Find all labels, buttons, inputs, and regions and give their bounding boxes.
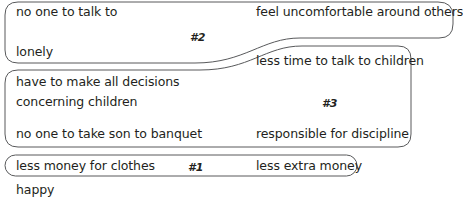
item-no-one-to-talk-to: no one to talk to — [16, 4, 117, 19]
group-1-label: #1 — [188, 161, 203, 174]
item-no-one-banquet: no one to take son to banquet — [16, 126, 202, 141]
item-less-time-children: less time to talk to children — [256, 53, 424, 68]
item-concerning-children: concerning children — [16, 94, 137, 109]
item-happy: happy — [16, 182, 54, 197]
group-2-label: #2 — [190, 31, 205, 44]
item-less-money-clothes: less money for clothes — [16, 158, 155, 173]
item-less-extra-money: less extra money — [256, 158, 362, 173]
group-3-label: #3 — [322, 97, 337, 110]
item-feel-uncomfortable: feel uncomfortable around others — [256, 4, 463, 19]
item-lonely: lonely — [16, 44, 53, 59]
item-responsible-discipline: responsible for discipline — [256, 126, 409, 141]
item-make-decisions: have to make all decisions — [16, 74, 179, 89]
